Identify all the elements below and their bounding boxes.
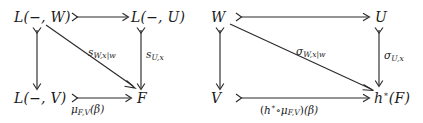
args-top-left: (−, W): [24, 9, 71, 25]
arrow-right-vertical-right-diagram: [375, 28, 383, 87]
args-h-star: (F): [389, 90, 410, 106]
symbol-F: F: [137, 90, 147, 106]
arrow-bottom-left-diagram: [72, 94, 132, 102]
node-bottom-left-L-minus-V: L(−, V): [14, 91, 66, 105]
label-bottom-mu-F-V-beta: μF,V(β): [71, 104, 104, 116]
label-bottom-h-star-compose-mu: (h∗∘μF,V)(β): [260, 104, 318, 117]
label-sub-sigma-diagonal: W,x|w: [303, 50, 325, 59]
label-arg-beta-bottom-right: (β): [304, 104, 318, 116]
node-bottom-left-V: V: [211, 91, 221, 105]
arrow-right-vertical-left-diagram: [137, 28, 145, 90]
label-sub-sigma-right: U,x: [391, 54, 404, 63]
args-bottom-left: (−, V): [24, 90, 67, 106]
label-sub-mu-bottom: F,V: [78, 108, 90, 117]
script-L-top-right: L: [131, 9, 141, 25]
figure-canvas: L(-,U) -->: [0, 0, 423, 123]
right-commutative-diagram: U -->: [211, 0, 423, 123]
node-top-left-W: W: [211, 10, 226, 24]
symbol-V: V: [211, 90, 221, 106]
symbol-U: U: [375, 9, 387, 25]
label-diagonal-s-W-x-w: sW,x|w: [88, 47, 116, 59]
node-bottom-right-h-star-F: h∗(F): [374, 91, 410, 105]
node-top-right-L-minus-U: L(−, U): [131, 10, 185, 24]
label-right-sigma-U-x: σU,x: [384, 50, 404, 62]
arrow-top-left-diagram: [72, 13, 129, 21]
label-h-bottom: h: [264, 104, 271, 116]
script-L-bottom-left: L: [14, 90, 24, 106]
label-right-s-U-x: sU,x: [146, 49, 164, 61]
arrow-bottom-right-diagram: [236, 94, 370, 102]
arrow-left-vertical-left-diagram: [33, 28, 41, 90]
symbol-h: h: [374, 90, 383, 106]
arrow-top-right-diagram: [236, 13, 370, 21]
label-mu-sub-bottom-right: F,V: [288, 108, 300, 117]
node-top-right-U: U: [375, 10, 387, 24]
node-top-left-L-minus-W: L(−, W): [14, 10, 71, 24]
label-sub-right: U,x: [151, 53, 164, 62]
label-diagonal-sigma-W-x-w: σW,x|w: [296, 46, 326, 58]
node-bottom-right-F: F: [137, 91, 147, 105]
symbol-W: W: [211, 9, 226, 25]
label-arg-beta-bottom: (β): [90, 103, 104, 115]
arrow-left-vertical-right-diagram: [216, 28, 224, 90]
label-mu-bottom-right: μ: [281, 104, 288, 116]
script-L-top-left: L: [14, 9, 24, 25]
left-commutative-diagram: L(-,U) -->: [0, 0, 212, 123]
label-sub-diagonal: W,x|w: [93, 51, 115, 60]
args-top-right: (−, U): [141, 9, 186, 25]
label-base-mu-bottom: μ: [71, 103, 78, 115]
